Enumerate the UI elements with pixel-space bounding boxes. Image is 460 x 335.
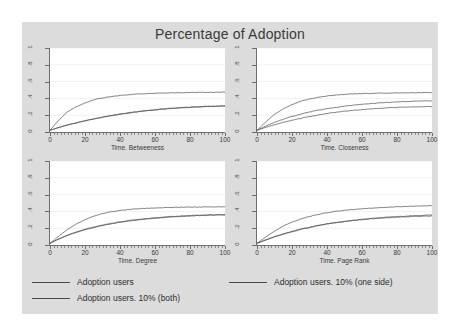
x-tick-minor xyxy=(282,133,283,135)
x-tick-minor xyxy=(285,246,286,248)
x-tick-minor xyxy=(387,133,388,135)
x-tick-minor xyxy=(408,246,409,248)
x-tick-minor xyxy=(173,246,174,248)
x-tick-minor xyxy=(204,246,205,248)
x-tick-minor xyxy=(411,246,412,248)
y-tick xyxy=(252,82,256,83)
y-tick xyxy=(45,161,49,162)
x-tick-minor xyxy=(145,133,146,135)
x-tick-minor xyxy=(359,133,360,135)
x-tick-minor xyxy=(422,133,423,135)
x-tick-minor xyxy=(271,246,272,248)
x-tick-minor xyxy=(82,133,83,135)
x-tick-minor xyxy=(211,133,212,135)
x-tick-minor xyxy=(404,246,405,248)
x-tick-minor xyxy=(303,246,304,248)
x-tick-minor xyxy=(348,246,349,248)
x-tick-minor xyxy=(159,133,160,135)
x-tick-minor xyxy=(313,246,314,248)
x-tick-minor xyxy=(176,246,177,248)
y-tick-label: 1 xyxy=(234,35,240,59)
x-tick-minor xyxy=(166,133,167,135)
x-tick-minor xyxy=(54,246,55,248)
x-tick-minor xyxy=(299,246,300,248)
y-tick xyxy=(252,211,256,212)
x-tick-label: 20 xyxy=(283,249,301,256)
x-tick-minor xyxy=(141,133,142,135)
x-tick-minor xyxy=(64,246,65,248)
plot-area xyxy=(50,161,225,245)
x-tick-minor xyxy=(127,133,128,135)
legend-label: Adoption users xyxy=(77,277,134,287)
y-tick xyxy=(45,195,49,196)
x-tick-minor xyxy=(117,246,118,248)
x-tick-minor xyxy=(338,133,339,135)
x-tick-minor xyxy=(299,133,300,135)
y-tick xyxy=(252,65,256,66)
chart-panel-page-rank: Time. Page Rank 0.2.4.6.81020406080100 xyxy=(231,159,436,272)
x-tick-minor xyxy=(306,246,307,248)
x-tick-label: 60 xyxy=(353,249,371,256)
x-tick-minor xyxy=(89,133,90,135)
plot-lines xyxy=(257,161,432,245)
x-tick-label: 20 xyxy=(76,136,94,143)
x-tick-minor xyxy=(310,246,311,248)
x-tick-minor xyxy=(401,133,402,135)
x-tick-minor xyxy=(401,246,402,248)
x-tick-minor xyxy=(208,133,209,135)
x-tick-minor xyxy=(331,133,332,135)
plot-area xyxy=(257,48,432,132)
legend-item-adoption-users-one-side: Adoption users. 10% (one side) xyxy=(229,277,393,287)
x-tick-minor xyxy=(54,133,55,135)
x-tick-minor xyxy=(317,133,318,135)
x-tick-minor xyxy=(61,246,62,248)
x-tick-minor xyxy=(113,133,114,135)
x-tick-minor xyxy=(369,133,370,135)
x-tick-minor xyxy=(99,133,100,135)
chart-legend: Adoption users Adoption users. 10% (one … xyxy=(22,273,438,311)
x-tick-minor xyxy=(222,133,223,135)
x-tick-minor xyxy=(201,246,202,248)
x-tick-label: 60 xyxy=(353,136,371,143)
x-tick-minor xyxy=(124,246,125,248)
x-tick-minor xyxy=(138,246,139,248)
x-tick-minor xyxy=(134,133,135,135)
chart-panel-degree: Time. Degree 0.2.4.6.81020406080100 xyxy=(24,159,229,272)
x-tick-minor xyxy=(148,246,149,248)
y-tick xyxy=(45,245,49,246)
x-tick-minor xyxy=(383,133,384,135)
panel-xlabel: Time. Page Rank xyxy=(257,257,432,264)
x-tick-minor xyxy=(275,133,276,135)
x-tick-minor xyxy=(127,246,128,248)
x-tick-minor xyxy=(334,246,335,248)
x-tick-label: 80 xyxy=(181,249,199,256)
x-tick-minor xyxy=(429,133,430,135)
x-tick-minor xyxy=(390,246,391,248)
x-tick-minor xyxy=(173,133,174,135)
plot-area xyxy=(257,161,432,245)
x-tick-label: 0 xyxy=(41,249,59,256)
chart-panel-betweeness: Time. Betweeness 0.2.4.6.81020406080100 xyxy=(24,46,229,159)
x-tick-minor xyxy=(289,133,290,135)
x-tick-minor xyxy=(278,133,279,135)
x-tick-label: 100 xyxy=(423,249,441,256)
legend-label: Adoption users. 10% (one side) xyxy=(274,277,393,287)
x-tick-minor xyxy=(176,133,177,135)
x-tick-minor xyxy=(110,133,111,135)
x-tick-minor xyxy=(313,133,314,135)
y-tick xyxy=(45,132,49,133)
x-tick-minor xyxy=(106,246,107,248)
y-tick-label: 1 xyxy=(27,148,33,172)
x-tick-minor xyxy=(331,246,332,248)
x-tick-minor xyxy=(341,133,342,135)
x-tick-label: 0 xyxy=(248,249,266,256)
x-tick-minor xyxy=(310,133,311,135)
x-tick-minor xyxy=(162,246,163,248)
x-tick-minor xyxy=(264,246,265,248)
x-tick-label: 40 xyxy=(111,249,129,256)
x-tick-minor xyxy=(394,133,395,135)
x-tick-minor xyxy=(306,133,307,135)
x-tick-minor xyxy=(296,246,297,248)
x-tick-minor xyxy=(404,133,405,135)
panel-xlabel: Time. Betweeness xyxy=(50,144,225,151)
